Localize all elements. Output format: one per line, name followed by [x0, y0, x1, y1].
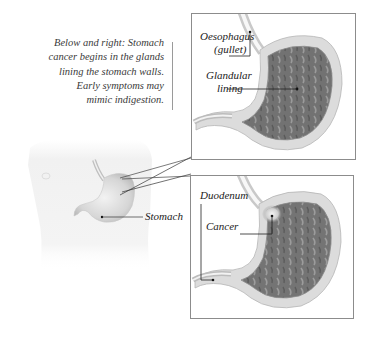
- label-cancer: Cancer: [206, 220, 238, 232]
- panel-cancer: Duodenum Cancer: [190, 175, 354, 319]
- label-oesophagus: Oesophagus: [200, 30, 254, 42]
- caption-text: Below and right: Stomach cancer begins i…: [20, 36, 164, 107]
- label-gullet: (gullet): [214, 43, 246, 55]
- connector-lines: [120, 150, 195, 180]
- caption-line: lining the stomach walls.: [20, 65, 164, 79]
- panel-glandular-lining: Oesophagus (gullet) Glandular lining: [191, 13, 356, 160]
- caption-line: Early symptoms may: [20, 79, 164, 93]
- label-duodenum: Duodenum: [200, 189, 248, 201]
- caption-line: Below and right: Stomach: [20, 36, 164, 50]
- label-lining: lining: [217, 82, 243, 94]
- label-glandular: Glandular: [206, 69, 252, 81]
- label-stomach: Stomach: [145, 210, 183, 222]
- caption-line: mimic indigestion.: [20, 93, 164, 107]
- caption-divider: [172, 42, 173, 110]
- caption-line: cancer begins in the glands: [20, 50, 164, 64]
- torso-illustration: [0, 120, 200, 290]
